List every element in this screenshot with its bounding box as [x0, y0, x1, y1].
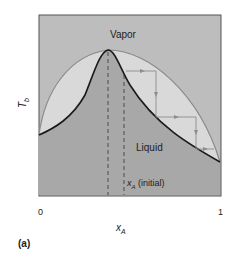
x-tick-1: 1 [218, 207, 223, 217]
x-axis-label: xA [116, 222, 126, 235]
initial-composition-label: xA (initial) [127, 178, 165, 190]
vapor-label: Vapor [110, 29, 136, 40]
y-axis-label: Tb [17, 98, 30, 108]
x-tick-0: 0 [38, 207, 43, 217]
liquid-label: Liquid [136, 142, 163, 153]
panel-label: (a) [18, 238, 30, 249]
